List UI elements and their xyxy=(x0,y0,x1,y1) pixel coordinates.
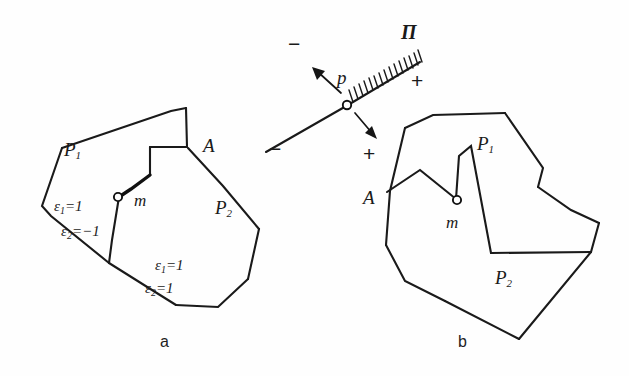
panel-b-inner-chord-edge xyxy=(491,252,591,253)
panel-b-lower-left-edge xyxy=(386,245,445,301)
panel-a-notch-right-edge xyxy=(186,108,187,147)
panel-a-epsilon-2-upper: ε2=−1 xyxy=(61,224,100,241)
figure-container: P1 P2 A m aε1=1 ε2=−1 ε1=1 ε2=1 П p − − … xyxy=(0,0,629,376)
negative-direction-arrow-head xyxy=(312,67,325,80)
panel-a-region-2-label: P2 xyxy=(215,198,232,219)
panel-b-right-lower-edge xyxy=(591,223,599,252)
cut-line-pi-label: П xyxy=(401,22,417,42)
cut-line-point-p-label: p xyxy=(337,68,347,87)
panel-a-inner-lower-edge xyxy=(109,197,119,263)
cut-line-geometry xyxy=(266,50,422,152)
cut-line-positive-sign-lower: + xyxy=(363,143,375,164)
panel-a-epsilon-2-lower: ε2=1 xyxy=(145,281,174,298)
panel-a-vertex-a-label: A xyxy=(203,136,215,155)
panel-a-epsilon-1-upper: aε1=1 xyxy=(54,199,83,216)
cut-line-positive-sign-upper: + xyxy=(411,70,423,91)
panel-b-right-shoulder-edge xyxy=(538,187,599,223)
panel-a-vertex-m-label: m xyxy=(134,192,146,209)
panel-a-point-m-marker xyxy=(114,193,122,201)
cut-line-point-p-marker xyxy=(343,101,351,109)
caption-panel-b: b xyxy=(458,334,467,350)
panel-b-region-2-label: P2 xyxy=(495,268,512,289)
panel-b-point-m-marker xyxy=(453,196,461,204)
panel-b-vertex-a-label: A xyxy=(363,188,375,207)
panel-b-inner-notch-path xyxy=(387,146,491,253)
panel-b-bottom-spike-right-edge xyxy=(519,252,591,339)
caption-panel-a: a xyxy=(160,334,169,350)
figure-vector-canvas xyxy=(0,0,629,376)
panel-a-epsilon-1-lower: ε1=1 xyxy=(155,258,184,275)
panel-b-top-left-edge xyxy=(405,113,505,128)
panel-b-top-right-edge xyxy=(505,113,543,187)
panel-a-region-1-label: P1 xyxy=(64,140,81,161)
cut-line-negative-sign-upper: − xyxy=(288,33,300,54)
panel-b-region-1-label: P1 xyxy=(477,134,494,155)
panel-a-p2-right-edge xyxy=(248,229,259,279)
panel-a-p2-bottom-edge xyxy=(176,279,248,307)
cut-line-negative-sign-lower: − xyxy=(269,138,281,159)
panel-b-vertex-m-label: m xyxy=(446,214,458,231)
panel-b-bottom-spike-left-edge xyxy=(445,301,519,339)
